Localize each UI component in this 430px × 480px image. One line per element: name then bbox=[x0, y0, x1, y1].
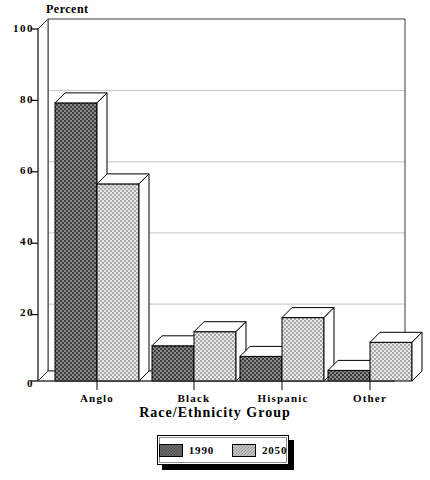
legend-label-1990: 1990 bbox=[189, 444, 214, 456]
legend-item-1990: 1990 bbox=[159, 444, 214, 457]
x-axis-title: Race/Ethnicity Group bbox=[0, 405, 430, 421]
bar-hispanic-2050 bbox=[282, 308, 334, 381]
legend-item-2050: 2050 bbox=[232, 444, 287, 457]
bar-black-2050 bbox=[194, 322, 246, 381]
bar-other-2050 bbox=[370, 332, 422, 381]
chart-legend: 1990 2050 bbox=[157, 435, 289, 465]
x-tick-label-black: Black bbox=[154, 392, 234, 404]
bar-anglo-2050 bbox=[97, 174, 149, 381]
legend-swatch-1990-icon bbox=[159, 444, 183, 457]
legend-label-2050: 2050 bbox=[262, 444, 287, 456]
x-tick-label-anglo: Anglo bbox=[57, 392, 137, 404]
bar-chart: Percent 100 80 60 40 20 0 bbox=[0, 0, 430, 480]
x-tick-label-hispanic: Hispanic bbox=[238, 392, 328, 404]
x-tick-label-other: Other bbox=[330, 392, 410, 404]
legend-swatch-2050-icon bbox=[232, 444, 256, 457]
